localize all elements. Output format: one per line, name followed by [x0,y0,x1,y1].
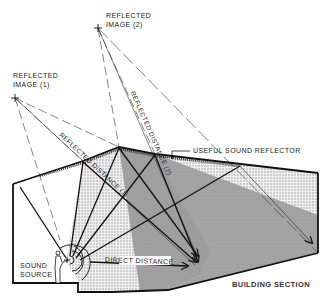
sound-source-label: SOUND SOURCE [20,262,52,279]
reflected-image-2-label: REFLECTED IMAGE (2) [106,12,151,29]
label-line: IMAGE (2) [106,21,151,30]
label-line: SOUND [20,262,52,271]
label-line: REFLECTED [13,72,58,81]
label-line: IMAGE (1) [13,81,58,90]
reflected-image-1-label: REFLECTED IMAGE (1) [13,72,58,89]
building-section-title: BUILDING SECTION [232,281,310,290]
useful-sound-reflector-label: USEFUL SOUND REFLECTOR [193,147,301,156]
label-line: REFLECTED [106,12,151,21]
label-line: SOURCE [20,271,52,280]
